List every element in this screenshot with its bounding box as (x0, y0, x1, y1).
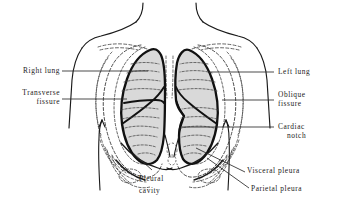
label-right-lung: Right lung (8, 66, 60, 75)
label-transverse-fissure-line1: Transverse (2, 88, 60, 97)
label-cardiac-notch-line2: notch (287, 131, 337, 140)
right-lung (121, 49, 165, 164)
mediastinum-dashed (167, 143, 177, 165)
torso-outline (69, 3, 270, 128)
flank-arrow-right (223, 120, 229, 190)
left-lung (175, 50, 217, 164)
label-visceral-pleura: Visceral pleura (247, 166, 337, 175)
label-pleural-cavity-line2: cavity (139, 186, 185, 195)
label-oblique-fissure-line2: fissure (278, 99, 336, 108)
clavicle-dashed (98, 44, 241, 53)
label-left-lung: Left lung (278, 67, 336, 76)
label-transverse-fissure-line2: fissure (2, 97, 60, 106)
leader-visceral-pleura (196, 148, 245, 172)
label-oblique-fissure-line1: Oblique (278, 90, 336, 99)
label-parietal-pleura: Parietal pleura (251, 184, 339, 193)
mediastinum-outline (165, 135, 179, 157)
flank-arrow-left (99, 120, 105, 190)
label-pleural-cavity-line1: Pleural (139, 174, 185, 183)
label-cardiac-notch-line1: Cardiac (278, 122, 336, 131)
